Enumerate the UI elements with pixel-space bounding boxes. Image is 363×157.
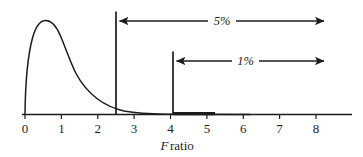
tick-label-6: 6 [240, 121, 247, 136]
tick-label-8: 8 [313, 121, 320, 136]
tick-label-7: 7 [276, 121, 283, 136]
tick-label-0: 0 [22, 121, 29, 136]
tick-label-3: 3 [131, 121, 138, 136]
x-axis-tick-labels: 0 1 2 3 4 5 6 7 8 [22, 121, 320, 136]
region-label-1pct: 1% [237, 54, 254, 68]
region-arrow-5pct: 5% [120, 14, 325, 28]
f-distribution-curve [25, 21, 250, 115]
tick-label-5: 5 [204, 121, 211, 136]
tick-label-1: 1 [58, 121, 65, 136]
f-distribution-figure: 0 1 2 3 4 5 6 7 8 5% 1% F [0, 0, 363, 157]
x-axis-title-suffix: ratio [170, 138, 194, 153]
region-arrow-1pct: 1% [177, 54, 325, 68]
region-label-5pct: 5% [214, 14, 231, 28]
figure-canvas: 0 1 2 3 4 5 6 7 8 5% 1% F [0, 0, 363, 157]
tick-label-2: 2 [95, 121, 102, 136]
tick-label-4: 4 [167, 121, 174, 136]
x-axis-title: F ratio [160, 138, 194, 153]
x-axis-title-f-symbol: F [160, 138, 170, 153]
